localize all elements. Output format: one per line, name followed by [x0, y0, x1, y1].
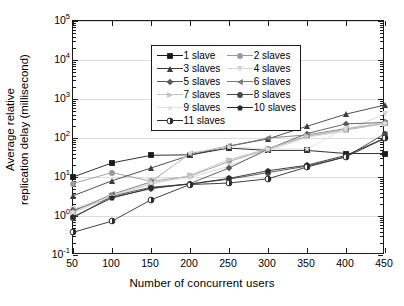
legend-label: 7 slaves	[184, 88, 226, 101]
x-axis-tick-label: 350	[297, 258, 315, 269]
legend-symbol-cell	[225, 49, 254, 62]
legend-symbol-cell-empty	[225, 114, 254, 127]
y-axis-tick-label: 102	[54, 132, 70, 143]
legend-marker	[167, 104, 174, 111]
legend-marker	[237, 65, 244, 72]
legend-label: 11 slaves	[184, 114, 226, 127]
legend-symbol-cell	[155, 75, 184, 88]
series-line	[73, 138, 385, 232]
legend-marker	[167, 78, 174, 85]
legend-marker	[237, 91, 244, 98]
legend-marker	[237, 104, 244, 111]
x-axis-tick-label: 450	[375, 258, 393, 269]
x-axis-tick-label: 400	[336, 258, 354, 269]
plot-area: 1 slave2 slaves3 slaves4 slaves5 slaves6…	[72, 20, 384, 254]
x-axis-tick-label: 150	[141, 258, 159, 269]
legend-label: 10 slaves	[254, 101, 296, 114]
series-line	[73, 148, 385, 177]
legend-label: 2 slaves	[254, 49, 296, 62]
x-axis-tick	[385, 248, 386, 253]
legend-symbol-cell	[225, 88, 254, 101]
series-line	[73, 123, 385, 212]
legend-symbol-cell	[225, 62, 254, 75]
series-line	[73, 138, 385, 217]
legend-label: 6 slaves	[254, 75, 296, 88]
legend-symbol-cell	[155, 49, 184, 62]
legend-symbol-cell	[225, 75, 254, 88]
x-axis-tick-label: 200	[180, 258, 198, 269]
legend-row: 11 slaves	[155, 114, 296, 127]
legend-label: 3 slaves	[184, 62, 226, 75]
legend-label: 9 slaves	[184, 101, 226, 114]
y-axis-tick-label: 101	[54, 171, 70, 182]
legend-row: 7 slaves8 slaves	[155, 88, 296, 101]
x-axis-tick	[385, 21, 386, 26]
x-axis-title: Number of concurrent users	[0, 277, 404, 289]
legend-label: 8 slaves	[254, 88, 296, 101]
x-axis-tick-label: 250	[219, 258, 237, 269]
y-axis-tick-label: 105	[54, 15, 70, 26]
legend-row: 1 slave2 slaves	[155, 49, 296, 62]
legend-label: 4 slaves	[254, 62, 296, 75]
legend-marker	[237, 78, 244, 85]
legend-label: 5 slaves	[184, 75, 226, 88]
legend-symbol-cell	[155, 101, 184, 114]
y-axis-tick	[378, 255, 383, 256]
y-axis-tick-label: 100	[54, 210, 70, 221]
legend-symbol-cell	[155, 114, 184, 127]
legend-marker	[167, 117, 174, 124]
x-axis-tick-label: 100	[102, 258, 120, 269]
x-axis-tick-label: 50	[66, 258, 78, 269]
legend-table: 1 slave2 slaves3 slaves4 slaves5 slaves6…	[155, 49, 296, 127]
chart-figure: Average relative replication delay (mill…	[0, 0, 404, 306]
legend-row: 5 slaves6 slaves	[155, 75, 296, 88]
y-axis-tick-label: 103	[54, 93, 70, 104]
legend-label-empty	[254, 114, 296, 127]
y-axis-tick-labels: 10-1100101102103104105	[0, 20, 70, 254]
y-axis-tick-label: 104	[54, 54, 70, 65]
legend-row: 3 slaves4 slaves	[155, 62, 296, 75]
legend-symbol-cell	[225, 101, 254, 114]
legend-symbol-cell	[155, 62, 184, 75]
legend-symbol-cell	[155, 88, 184, 101]
legend: 1 slave2 slaves3 slaves4 slaves5 slaves6…	[151, 45, 301, 131]
legend-marker	[167, 65, 174, 72]
legend-marker	[167, 91, 174, 98]
y-axis-tick	[73, 255, 78, 256]
legend-marker	[237, 52, 244, 59]
legend-marker	[167, 52, 174, 59]
x-axis-tick-label: 300	[258, 258, 276, 269]
legend-label: 1 slave	[184, 49, 226, 62]
legend-row: 9 slaves10 slaves	[155, 101, 296, 114]
